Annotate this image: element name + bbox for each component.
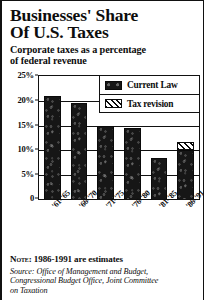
bar-segment-current-law — [44, 96, 61, 199]
y-axis-tick-label: 25% — [8, 70, 34, 80]
legend-label-current-law: Current Law — [127, 80, 178, 90]
page-title: Businesses' Share Of U.S. Taxes — [10, 7, 197, 40]
gridline — [39, 175, 199, 176]
note-label: Note: — [10, 254, 32, 264]
y-axis-tick-label: 5% — [8, 169, 34, 179]
note-text: 1986-1991 are estimates — [34, 254, 123, 264]
chart-card: Businesses' Share Of U.S. Taxes Corporat… — [0, 0, 204, 300]
note-line: Note: 1986-1991 are estimates — [10, 254, 197, 264]
y-axis-tick-label: 15% — [8, 120, 34, 130]
gridline — [39, 150, 199, 151]
legend-item-tax-revision: Tax revision — [100, 94, 199, 112]
diagonal-hatch-swatch-icon — [105, 99, 122, 108]
source-text: Source: Office of Management and Budget,… — [10, 267, 197, 295]
bar-chart: 05%10%15%20%25% '61-'65'66-'70'71-'75'76… — [10, 71, 200, 216]
bar — [44, 96, 61, 199]
y-axis-tick-label: 10% — [8, 144, 34, 154]
chart-subtitle: Corporate taxes as a percentage of feder… — [10, 44, 197, 66]
bar — [97, 126, 114, 200]
y-axis-tick-label: 0 — [8, 193, 34, 203]
bar — [177, 142, 194, 199]
bar-segment-tax-revision — [177, 142, 194, 150]
bar — [124, 128, 141, 199]
bar-segment-current-law — [124, 128, 141, 199]
bar — [71, 103, 88, 199]
bar-segment-current-law — [151, 158, 168, 200]
chart-footer: Note: 1986-1991 are estimates Source: Of… — [10, 254, 197, 295]
gridline — [39, 126, 199, 127]
legend-label-tax-revision: Tax revision — [127, 99, 173, 109]
bar-segment-current-law — [97, 126, 114, 200]
bar — [151, 158, 168, 200]
solid-black-swatch-icon — [105, 81, 122, 90]
legend: Current Law Tax revision — [99, 75, 200, 113]
bar-segment-current-law — [177, 150, 194, 199]
bar-segment-current-law — [71, 103, 88, 199]
y-axis-tick-label: 20% — [8, 95, 34, 105]
legend-item-current-law: Current Law — [100, 76, 199, 94]
